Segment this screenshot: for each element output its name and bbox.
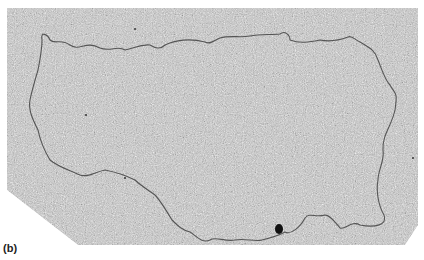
micrograph-grain xyxy=(0,0,424,260)
micrograph-image xyxy=(0,0,424,260)
panel-label: (b) xyxy=(3,242,17,254)
speck xyxy=(412,157,414,159)
speck xyxy=(134,28,136,30)
dark-particle xyxy=(275,224,283,234)
micrograph-figure: (b) xyxy=(0,0,424,260)
speck xyxy=(85,114,87,116)
speck xyxy=(124,177,126,179)
